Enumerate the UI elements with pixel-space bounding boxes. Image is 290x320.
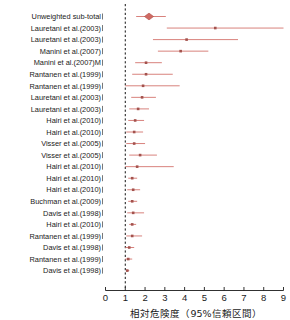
estimate-marker [133,131,136,134]
row-label: Buchman et al.(2009) [30,197,101,206]
estimate-marker [131,235,134,238]
row-label: Rantanen et al.(1999) [30,82,102,91]
estimate-marker [127,258,130,261]
row-label: Manini et al.(2007)M [34,58,101,67]
x-axis-tick-label: 3 [162,292,167,303]
row-label: Hairi et al.(2010) [46,128,101,137]
estimate-marker [185,38,188,41]
estimate-marker [132,188,135,191]
row-label: Hairi et al.(2010) [46,162,101,171]
x-axis-tick-label: 1 [123,292,128,303]
row-label: Davis et al.(1998) [43,243,101,252]
x-axis-tick-label: 7 [241,292,246,303]
row-label: Hairi et al.(2010) [46,116,101,125]
x-axis-tick-label: 6 [222,292,227,303]
estimate-marker [136,165,139,168]
estimate-marker [132,212,135,215]
estimate-marker [131,223,134,226]
row-label: Visser et al.(2005) [41,151,101,160]
estimate-marker [126,269,129,272]
x-axis-tick-label: 8 [261,292,266,303]
row-label: Lauretani et al.(2003) [31,93,101,102]
x-axis-title: 相対危険度（95%信頼区間） [130,308,261,319]
estimate-marker [141,96,144,99]
row-labels-group: Unweighted sub-totalLauretani et al.(200… [30,12,103,275]
estimate-marker [214,27,217,30]
x-axis-tick-label: 2 [142,292,147,303]
x-axis-tick-label: 4 [182,292,187,303]
row-label: Unweighted sub-total [32,12,102,21]
row-label: Lauretani et al.(2003) [31,24,101,33]
row-label: Rantanen et al.(1999) [30,232,102,241]
estimate-marker [128,246,131,249]
row-label: Hairi et al.(2010) [46,185,101,194]
estimate-marker [134,119,137,122]
row-label: Hairi et al.(2010) [46,174,101,183]
estimate-marker [131,177,134,180]
x-axis-tick-label: 0 [103,292,108,303]
estimate-marker [179,50,182,53]
estimate-marker [142,85,145,88]
x-axis-tick-label: 5 [202,292,207,303]
estimate-marker [137,108,140,111]
estimate-marker [139,154,142,157]
estimate-marker [133,142,136,145]
row-label: Manini et al.(2007) [40,47,101,56]
forest-plot: Unweighted sub-totalLauretani et al.(200… [0,0,290,320]
estimate-marker [131,200,134,203]
row-label: Davis et al.(1998) [43,266,101,275]
estimate-marker [145,73,148,76]
row-label: Visser et al.(2005) [41,139,101,148]
row-label: Rantanen et al.(1999) [30,70,102,79]
row-label: Hairi et al.(2010) [46,220,101,229]
estimate-marker [145,61,148,64]
x-axis-tick-label: 9 [281,292,286,303]
row-label: Lauretani et al.(2003) [31,35,101,44]
row-label: Rantanen et al.(1999) [30,255,102,264]
row-label: Lauretani et al.(2003) [31,105,101,114]
row-label: Davis et al.(1998) [43,209,101,218]
